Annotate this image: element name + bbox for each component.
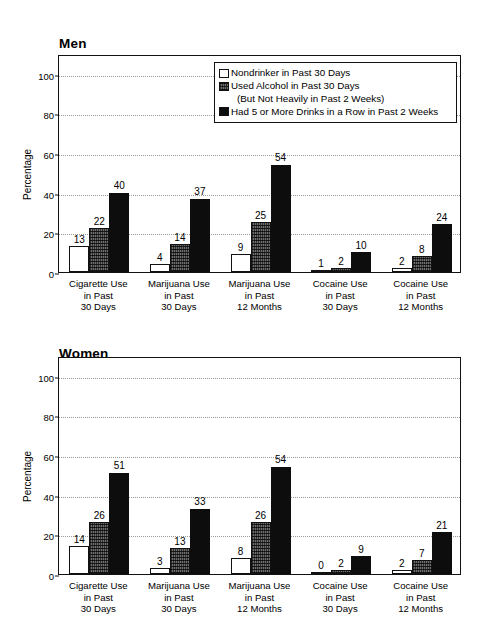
category-label-line: Marijuana Use (219, 278, 300, 290)
bar (170, 244, 190, 272)
bar-group: 142651 (69, 358, 129, 574)
bar-group: 82654 (231, 358, 291, 574)
y-axis-tick-mark (55, 274, 59, 275)
bar-value-label: 13 (174, 536, 185, 547)
bar-value-label: 2 (338, 558, 344, 569)
category-label: Cocaine Usein Past30 Days (300, 580, 381, 615)
y-axis-tick-label: 40 (43, 491, 54, 502)
category-label-line: 30 Days (300, 603, 381, 615)
legend-item-used-alcohol: Used Alcohol in Past 30 Days (219, 80, 452, 92)
bar (331, 570, 351, 574)
category-label: Marijuana Usein Past12 Months (219, 580, 300, 615)
legend-item-binge: Had 5 or More Drinks in a Row in Past 2 … (219, 106, 452, 118)
category-label-line: 30 Days (139, 301, 220, 313)
category-label-line: 12 Months (219, 301, 300, 313)
category-label-line: in Past (380, 592, 461, 604)
category-label-line: Cocaine Use (380, 278, 461, 290)
bar-value-label: 2 (399, 256, 405, 267)
category-label-line: 30 Days (300, 301, 381, 313)
y-axis-label-men: Percentage (22, 149, 33, 200)
bar-value-label: 51 (114, 460, 125, 471)
category-label: Marijuana Usein Past30 Days (139, 580, 220, 615)
legend-label-used-alcohol-sub: (But Not Heavily in Past 2 Weeks) (219, 93, 452, 105)
bar (69, 246, 89, 272)
bar-value-label: 54 (275, 152, 286, 163)
bar (271, 165, 291, 272)
category-label-line: 30 Days (58, 603, 139, 615)
category-label: Cigarette Usein Past30 Days (58, 278, 139, 313)
bar (351, 252, 371, 272)
bar-value-label: 3 (157, 556, 163, 567)
bar-group: 132240 (69, 56, 129, 272)
panel-title-men: Men (59, 36, 87, 51)
bar-value-label: 13 (74, 234, 85, 245)
bar-value-label: 2 (399, 558, 405, 569)
bar-value-label: 40 (114, 180, 125, 191)
bar (311, 572, 331, 574)
bar (109, 473, 129, 574)
category-label-line: in Past (300, 592, 381, 604)
category-label: Cocaine Usein Past12 Months (380, 580, 461, 615)
bar (251, 522, 271, 574)
bar (412, 560, 432, 574)
bar-value-label: 21 (436, 520, 447, 531)
bar-value-label: 54 (275, 454, 286, 465)
bar (109, 193, 129, 272)
category-label-line: 12 Months (219, 603, 300, 615)
y-axis-label-women: Percentage (22, 451, 33, 502)
y-axis-tick-label: 100 (38, 372, 54, 383)
category-label-line: 30 Days (58, 301, 139, 313)
bar (170, 548, 190, 574)
bar (190, 199, 210, 272)
legend-label-binge: Had 5 or More Drinks in a Row in Past 2 … (231, 106, 452, 118)
bar-value-label: 0 (318, 560, 324, 571)
bar (392, 570, 412, 574)
category-label: Cocaine Usein Past12 Months (380, 278, 461, 313)
bar (412, 256, 432, 272)
category-label-line: in Past (58, 290, 139, 302)
category-label-line: 12 Months (380, 301, 461, 313)
bar-value-label: 9 (358, 544, 364, 555)
y-axis-tick-label: 60 (43, 150, 54, 161)
legend-item-nondrinker: Nondrinker in Past 30 Days (219, 67, 452, 79)
bar-value-label: 8 (419, 244, 425, 255)
y-axis-tick-label: 100 (38, 70, 54, 81)
y-axis-tick-label: 0 (49, 571, 54, 582)
category-label-line: Marijuana Use (139, 278, 220, 290)
y-axis-tick-mark (55, 576, 59, 577)
y-axis-tick-label: 80 (43, 412, 54, 423)
bar (331, 268, 351, 272)
bar (432, 224, 452, 272)
legend-label-nondrinker: Nondrinker in Past 30 Days (231, 67, 452, 79)
category-label-line: Cocaine Use (300, 580, 381, 592)
bar-value-label: 26 (94, 510, 105, 521)
y-axis-tick-label: 40 (43, 189, 54, 200)
bar-value-label: 8 (238, 546, 244, 557)
bar-value-label: 9 (238, 242, 244, 253)
legend-label-used-alcohol: Used Alcohol in Past 30 Days (231, 80, 452, 92)
bar-value-label: 37 (194, 186, 205, 197)
bar-value-label: 22 (94, 216, 105, 227)
bar-value-label: 4 (157, 252, 163, 263)
plot-area-women: 020406080100 14265131333826540292721 (58, 357, 461, 575)
bar-group: 41437 (150, 56, 210, 272)
category-label-line: Marijuana Use (219, 580, 300, 592)
bars-women: 14265131333826540292721 (59, 358, 460, 574)
category-label-line: in Past (380, 290, 461, 302)
bar (231, 254, 251, 272)
y-axis-tick-label: 60 (43, 452, 54, 463)
chart-legend: Nondrinker in Past 30 Days Used Alcohol … (214, 62, 457, 123)
category-label-line: in Past (300, 290, 381, 302)
category-label: Marijuana Usein Past12 Months (219, 278, 300, 313)
category-label-line: Marijuana Use (139, 580, 220, 592)
bar (271, 467, 291, 574)
chart-panel-women: Women Percentage 020406080100 1426513133… (0, 330, 482, 643)
category-labels-men: Cigarette Usein Past30 DaysMarijuana Use… (58, 278, 461, 320)
category-label-line: in Past (139, 592, 220, 604)
category-label-line: 30 Days (139, 603, 220, 615)
category-label-line: in Past (219, 592, 300, 604)
bar (89, 228, 109, 272)
category-label-line: in Past (58, 592, 139, 604)
category-label-line: in Past (219, 290, 300, 302)
legend-swatch-binge-icon (219, 107, 229, 116)
